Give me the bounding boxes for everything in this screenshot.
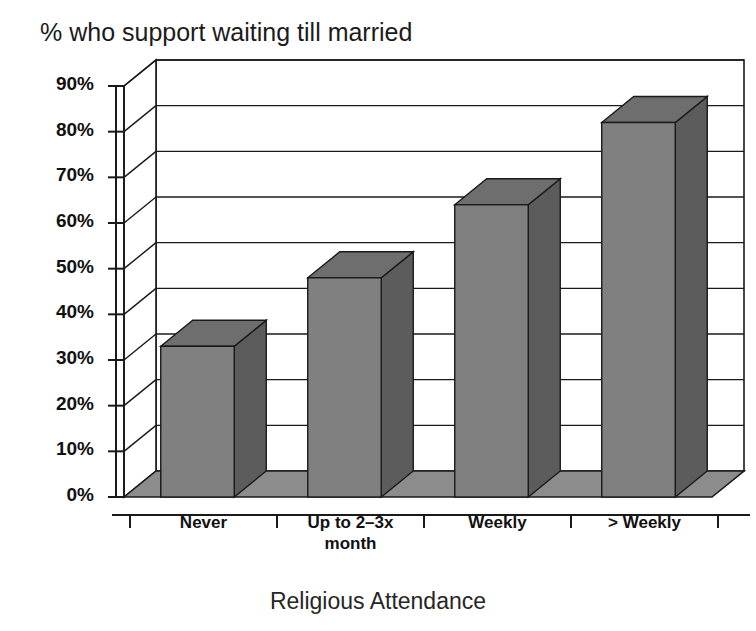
y-axis-tick-label: 70%	[14, 164, 94, 186]
x-axis-category-label: > Weekly	[571, 512, 718, 533]
x-axis-category-label: Up to 2–3xmonth	[277, 512, 424, 554]
bar-side-face	[234, 320, 266, 497]
bar-front-face	[602, 123, 676, 497]
y-axis-tick-label: 50%	[14, 256, 94, 278]
y-axis-tick-label: 0%	[14, 484, 94, 506]
category-label-line-1: Never	[130, 512, 277, 533]
x-axis-category-label: Never	[130, 512, 277, 533]
y-axis-tick-label: 30%	[14, 347, 94, 369]
x-axis-category-label: Weekly	[424, 512, 571, 533]
x-axis-title: Religious Attendance	[0, 588, 756, 615]
bar-column[interactable]	[602, 97, 708, 497]
bar-side-face	[381, 252, 413, 497]
y-axis-tick-label: 10%	[14, 438, 94, 460]
category-label-line-1: Weekly	[424, 512, 571, 533]
category-label-line-1: > Weekly	[571, 512, 718, 533]
category-label-line-1: Up to 2–3x	[277, 512, 424, 533]
y-axis-tick-label: 20%	[14, 393, 94, 415]
bar-front-face	[308, 278, 382, 497]
y-axis-tick-label: 40%	[14, 301, 94, 323]
chart-left-wall	[124, 60, 156, 497]
y-axis-tick-label: 80%	[14, 119, 94, 141]
category-label-line-2: month	[277, 533, 424, 554]
bar-side-face	[675, 97, 707, 497]
bar-front-face	[455, 205, 529, 497]
bar-front-face	[161, 346, 235, 497]
bar-column[interactable]	[455, 179, 561, 497]
y-axis-tick-label: 60%	[14, 210, 94, 232]
y-axis-tick-label: 90%	[14, 73, 94, 95]
bar-column[interactable]	[161, 320, 267, 497]
chart-container: % who support waiting till married 90%80…	[0, 0, 756, 631]
bar-column[interactable]	[308, 252, 414, 497]
bar-side-face	[528, 179, 560, 497]
